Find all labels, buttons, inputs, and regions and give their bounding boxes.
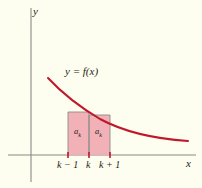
y-axis-label: y (33, 6, 38, 17)
x-tick-label-k: k (86, 160, 90, 170)
right-rectangle-label-subscript: k (99, 132, 102, 138)
right-rectangle-label: ak (95, 127, 102, 138)
x-axis-label: x (186, 158, 191, 169)
x-tick-label-k-plus-1: k + 1 (99, 160, 120, 170)
left-rectangle-label-subscript: k (78, 132, 81, 138)
left-rectangle-label: ak (74, 127, 81, 138)
x-tick-label-k-minus-1: k − 1 (57, 160, 78, 170)
integral-test-figure: y x y = f(x) k − 1 k k + 1 ak ak (0, 0, 202, 188)
function-label: y = f(x) (65, 66, 98, 77)
